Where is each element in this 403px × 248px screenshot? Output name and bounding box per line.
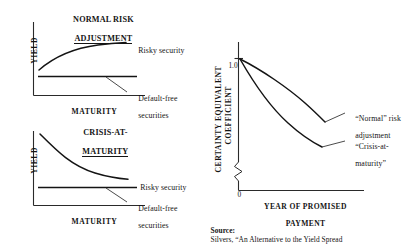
panel-title-line-1: NORMAL RISK — [73, 15, 134, 24]
curve-label-crisis-at-maturity-right: “Crisis-at- maturity” — [347, 134, 389, 178]
y-tick-label-1-0: 1.0 — [221, 54, 238, 79]
axis-label-certainty-equivalent-line-2: COEFFICIENT — [216, 86, 242, 154]
source-citation-text: Silvers, “An Alternative to the Yield Sp… — [211, 235, 343, 244]
panel-title-crisis-line-2: MATURITY — [82, 147, 128, 158]
curve-crisis-at-maturity — [240, 59, 322, 147]
axis-label-yield-bottom-left: YIELD — [22, 147, 48, 183]
curve-label-crisis-at-maturity-line-2: maturity” — [355, 159, 386, 168]
curve-label-risky-security-top-left: Risky security — [130, 38, 184, 64]
panel-title-crisis-line-1: CRISIS-AT- — [83, 128, 127, 137]
axis-label-yield-top-left: YIELD — [22, 37, 48, 73]
curve-label-crisis-at-maturity-line-1: “Crisis-at- — [355, 142, 389, 151]
curve-label-default-free-top-left-line-1: Default-free — [138, 94, 177, 103]
curve-label-default-free-bottom-left-line-2: securities — [138, 221, 168, 230]
leader-normal-risk-adjustment — [325, 113, 345, 122]
curve-label-normal-risk-adjustment-line-1: “Normal” risk — [355, 114, 401, 123]
y-tick-label-1-0-text: 1.0 — [228, 61, 237, 70]
axis-label-maturity-top-left-text: MATURITY — [72, 107, 118, 116]
leader-default-free-bottom-left — [106, 188, 127, 202]
axis-label-year-of-promised-payment-line-1: YEAR OF PROMISED — [264, 202, 347, 211]
curve-normal-risk-adjustment — [240, 59, 325, 122]
axis-label-yield-bottom-left-text: YIELD — [30, 147, 39, 174]
panel-title-crisis-at-maturity: CRISIS-AT- MATURITY — [55, 119, 147, 166]
chart-certainty-equivalent — [235, 42, 365, 191]
panel-title-line-2: ADJUSTMENT — [74, 34, 132, 45]
leader-default-free-top-left — [106, 77, 127, 92]
leader-crisis-at-maturity — [322, 141, 345, 147]
curve-label-risky-security-top-left-text: Risky security — [138, 46, 184, 55]
source-note: Source: Silvers, “An Alternative to the … — [203, 219, 403, 248]
axis-label-maturity-bottom-left: MATURITY — [62, 209, 117, 235]
axis-label-certainty-equivalent-line-2-text: COEFFICIENT — [224, 86, 233, 144]
curve-label-risky-security-bottom-left-text: Risky security — [140, 183, 186, 192]
axis-break-zigzag-icon — [235, 162, 243, 181]
axis-label-yield-top-left-text: YIELD — [30, 37, 39, 64]
axis-label-maturity-bottom-left-text: MATURITY — [72, 217, 118, 226]
curve-label-default-free-bottom-left-line-1: Default-free — [138, 204, 177, 213]
curve-label-default-free-bottom-left: Default-free securities — [130, 196, 178, 240]
